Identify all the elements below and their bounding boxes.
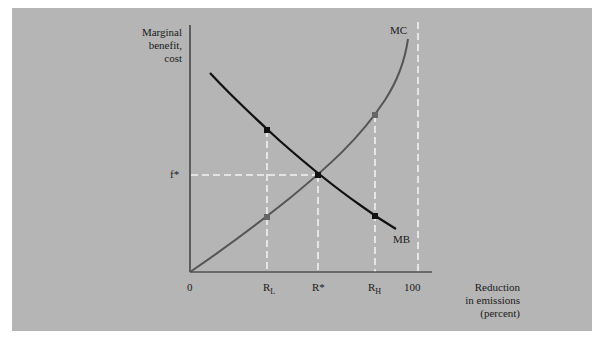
- equilibrium-point: [315, 172, 321, 178]
- mb-label: MB: [393, 233, 410, 246]
- rh-sub: H: [375, 287, 381, 296]
- x-axis-label-line: (percent): [430, 307, 520, 320]
- y-axis-label-line: Marginal: [120, 26, 182, 39]
- guide-lines: [191, 22, 418, 272]
- rl-sub: L: [270, 287, 275, 296]
- mc-point-rh: [372, 112, 378, 118]
- origin-tick-label: 0: [187, 281, 193, 294]
- x-axis-label-line: Reduction: [430, 281, 520, 294]
- mb-point-rl: [264, 127, 270, 133]
- x-axis-label: Reduction in emissions (percent): [430, 281, 520, 320]
- mc-label: MC: [390, 24, 407, 37]
- rl-tick-label: RL: [263, 281, 275, 298]
- fstar-tick-label: f*: [170, 168, 179, 181]
- y-axis-label-line: benefit,: [120, 39, 182, 52]
- mb-point-rh: [372, 213, 378, 219]
- mb-curve: [210, 73, 396, 229]
- y-axis-label: Marginal benefit, cost: [120, 26, 182, 65]
- y-axis-label-line: cost: [120, 52, 182, 65]
- mc-point-rl: [264, 214, 270, 220]
- rh-tick-label: RH: [368, 281, 381, 298]
- x-axis-label-line: in emissions: [430, 294, 520, 307]
- rstar-tick-label: R*: [312, 281, 325, 294]
- hundred-tick-label: 100: [404, 281, 421, 294]
